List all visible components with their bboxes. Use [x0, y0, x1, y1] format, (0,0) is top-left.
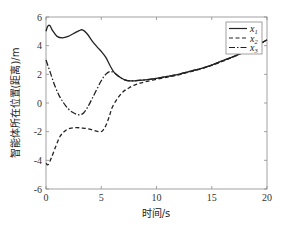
x-tick-label: 15 — [207, 192, 217, 203]
x-tick-label: 20 — [262, 192, 272, 203]
y-tick-label: -6 — [34, 184, 42, 195]
y-axis-label: 智能体所在位置(距离)/m — [9, 48, 21, 159]
y-tick-label: 2 — [37, 69, 42, 80]
y-tick-label: -4 — [34, 155, 42, 166]
y-tick-label: 6 — [37, 12, 42, 23]
series-x2-line — [46, 40, 267, 165]
line-chart: 05101520-6-4-20246 x1x2x3 时间/s 智能体所在位置(距… — [0, 0, 286, 230]
legend: x1x2x3 — [226, 22, 262, 54]
x-tick-label: 0 — [44, 192, 49, 203]
x-tick-label: 10 — [152, 192, 162, 203]
y-tick-label: 4 — [37, 40, 42, 51]
x-tick-label: 5 — [99, 192, 104, 203]
y-tick-label: -2 — [34, 126, 42, 137]
x-axis-label: 时间/s — [142, 207, 171, 219]
y-tick-label: 0 — [37, 98, 42, 109]
